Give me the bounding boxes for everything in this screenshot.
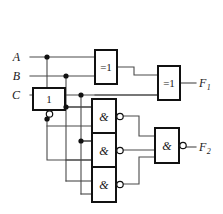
junction-dot-0 [44, 54, 49, 59]
output-subscript-2: 2 [207, 147, 211, 156]
output-bubble-nand4 [180, 142, 186, 148]
gate-nand2[interactable]: & [92, 133, 123, 168]
gate-nand4[interactable]: & [155, 128, 186, 163]
output-bubble-nand2 [117, 147, 123, 153]
junction-dot-4 [44, 116, 49, 121]
output-bubble-nand3 [117, 181, 123, 187]
gate-symbol-nand1: & [99, 110, 109, 124]
output-label-f1: F1 [198, 76, 211, 92]
output-bubble-nand1 [117, 113, 123, 119]
gate-symbol-nand3: & [99, 178, 109, 192]
output-label-f2: F2 [198, 140, 211, 156]
gate-symbol-xor1: =1 [100, 61, 112, 73]
wire-xor1-out [117, 67, 158, 75]
gate-xor1[interactable]: =1 [95, 50, 117, 84]
input-label-b: B [13, 69, 21, 83]
output-label-layer: F1F2 [198, 76, 211, 156]
gate-inv1[interactable]: 1 [33, 88, 65, 117]
circuit-canvas: 1=1=1&&&&ABCF1F2 [0, 0, 223, 214]
gate-nand1[interactable]: & [92, 99, 123, 134]
junction-dot-2 [78, 92, 83, 97]
junction-dot-1 [63, 73, 68, 78]
junction-dot-5 [78, 138, 83, 143]
circuit-diagram: 1=1=1&&&&ABCF1F2 [0, 0, 223, 214]
wire-nand3-out [121, 157, 155, 184]
gate-symbol-nand4: & [162, 139, 172, 153]
wire-nand1-out [121, 116, 155, 136]
gate-symbol-nand2: & [99, 144, 109, 158]
gate-nand3[interactable]: & [92, 167, 123, 202]
output-subscript-1: 1 [207, 83, 211, 92]
gate-symbol-inv1: 1 [46, 93, 52, 105]
wire-a-branch-lower [47, 119, 92, 160]
junction-dot-3 [63, 104, 68, 109]
input-label-a: A [12, 50, 21, 64]
gate-xor2[interactable]: =1 [158, 66, 180, 100]
output-bubble-inv1 [46, 111, 52, 117]
input-label-layer: ABC [12, 50, 21, 102]
input-label-c: C [12, 88, 21, 102]
gate-symbol-xor2: =1 [163, 77, 175, 89]
